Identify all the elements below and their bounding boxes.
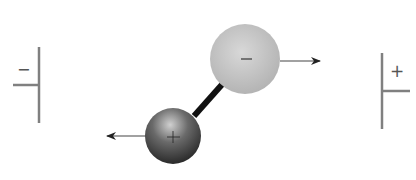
left-plate <box>13 47 39 123</box>
left-plate-sign: − <box>17 62 30 78</box>
dipole-diagram <box>0 0 416 180</box>
bond-line <box>194 80 226 116</box>
right-plate-sign: + <box>390 63 404 80</box>
